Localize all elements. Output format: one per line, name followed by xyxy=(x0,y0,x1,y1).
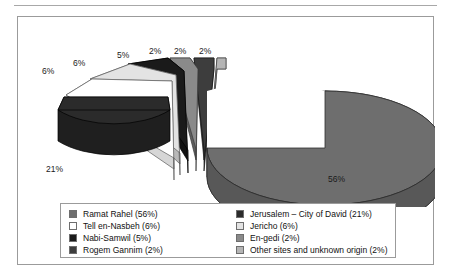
legend-item-other-sites[interactable]: Other sites and unknown origin (2%) xyxy=(236,244,395,256)
legend-label: Jerusalem – City of David (21%) xyxy=(250,209,372,219)
legend-label: En-gedi (2%) xyxy=(250,233,300,243)
legend-label: Nabi-Samwil (5%) xyxy=(83,233,151,243)
legend-item-en-gedi[interactable]: En-gedi (2%) xyxy=(236,232,395,244)
legend-label: Other sites and unknown origin (2%) xyxy=(250,245,388,255)
legend-item-jerusalem-city-of-david[interactable]: Jerusalem – City of David (21%) xyxy=(236,208,395,220)
slice-label: 21% xyxy=(46,164,63,174)
pie-slice-jerusalem-city-of-david xyxy=(58,97,170,155)
legend-swatch-jerusalem-city-of-david xyxy=(236,210,244,218)
legend-item-tell-en-nasbeh[interactable]: Tell en-Nasbeh (6%) xyxy=(69,220,228,232)
legend-column-left: Ramat Rahel (56%) Tell en-Nasbeh (6%) Na… xyxy=(61,208,228,257)
legend-swatch-tell-en-nasbeh xyxy=(69,222,77,230)
legend-swatch-other-sites xyxy=(236,246,244,254)
legend-column-right: Jerusalem – City of David (21%) Jericho … xyxy=(228,208,395,257)
slice-label: 6% xyxy=(42,66,54,76)
legend-swatch-rogem-gannim xyxy=(69,246,77,254)
legend-swatch-jericho xyxy=(236,222,244,230)
slice-label: 6% xyxy=(73,58,85,68)
pie-chart-area: 6% 6% 5% 2% 2% 2% 21% 56% xyxy=(18,17,435,207)
slice-label: 2% xyxy=(174,46,186,56)
pie-slice-ramat-rahel xyxy=(207,83,435,207)
legend-label: Rogem Gannim (2%) xyxy=(83,245,163,255)
slice-label: 5% xyxy=(117,50,129,60)
legend-label: Ramat Rahel (56%) xyxy=(83,209,158,219)
legend-item-jericho[interactable]: Jericho (6%) xyxy=(236,220,395,232)
legend-swatch-ramat-rahel xyxy=(69,210,77,218)
legend-swatch-en-gedi xyxy=(236,234,244,242)
top-horizontal-rule xyxy=(14,5,437,6)
legend-label: Jericho (6%) xyxy=(250,221,298,231)
slice-label: 2% xyxy=(149,46,161,56)
chart-legend: Ramat Rahel (56%) Tell en-Nasbeh (6%) Na… xyxy=(60,203,396,258)
legend-swatch-nabi-samwil xyxy=(69,234,77,242)
slice-label: 56% xyxy=(328,174,345,184)
slice-label: 2% xyxy=(199,46,211,56)
legend-item-rogem-gannim[interactable]: Rogem Gannim (2%) xyxy=(69,244,228,256)
pie-chart-svg xyxy=(18,17,435,207)
chart-frame: 6% 6% 5% 2% 2% 2% 21% 56% Ramat Rahel (5… xyxy=(17,16,434,265)
legend-label: Tell en-Nasbeh (6%) xyxy=(83,221,160,231)
legend-item-ramat-rahel[interactable]: Ramat Rahel (56%) xyxy=(69,208,228,220)
legend-item-nabi-samwil[interactable]: Nabi-Samwil (5%) xyxy=(69,232,228,244)
